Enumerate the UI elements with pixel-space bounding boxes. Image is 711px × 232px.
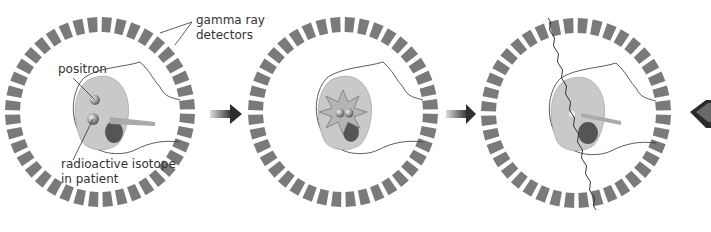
gamma-detector-block xyxy=(500,48,518,65)
gamma-detector-block xyxy=(7,85,24,98)
gamma-detector-block xyxy=(535,185,549,202)
gamma-detector-block xyxy=(614,29,630,47)
gamma-detector-block xyxy=(302,23,316,40)
gamma-detector-block xyxy=(483,128,500,141)
gamma-detector-block xyxy=(248,114,264,125)
gamma-detector-block xyxy=(316,19,329,36)
label-line: detectors xyxy=(196,28,265,43)
gamma-detectors-label: gamma ray detectors xyxy=(196,13,265,43)
arrow-1-to-2 xyxy=(210,104,242,124)
pet-diagram xyxy=(0,0,711,232)
gamma-detector-block xyxy=(35,170,52,188)
positron-label: positron xyxy=(58,62,107,77)
gamma-detector-block xyxy=(563,18,574,34)
gamma-detector-block xyxy=(115,189,128,206)
gamma-detector-block xyxy=(179,99,195,110)
gamma-detector-block xyxy=(17,150,35,166)
gamma-detector-block xyxy=(614,179,630,197)
gamma-detector-block xyxy=(7,127,24,140)
gamma-detector-block xyxy=(260,150,278,166)
gamma-detector-block xyxy=(523,179,539,197)
gamma-detector-block xyxy=(345,191,356,207)
gamma-detector-block xyxy=(278,170,295,188)
gamma-detector-block xyxy=(358,189,371,206)
gamma-detector-block xyxy=(549,190,562,207)
gamma-detector-block xyxy=(177,85,194,98)
gamma-detector-block xyxy=(370,184,384,201)
gamma-detector-block xyxy=(409,58,427,74)
gamma-detector-block xyxy=(88,191,98,207)
gamma-detector-block xyxy=(330,17,341,33)
gamma-detector-block xyxy=(481,101,497,111)
next-panel-badge xyxy=(690,100,711,128)
gamma-detector-block xyxy=(564,192,574,208)
gamma-detector-block xyxy=(24,47,41,64)
gamma-detector-block xyxy=(648,72,665,86)
label-line: in patient xyxy=(61,172,176,187)
gamma-detector-block xyxy=(250,127,267,140)
gamma-detector-block xyxy=(522,30,538,48)
gamma-detector-block xyxy=(331,191,341,207)
gamma-detector-block xyxy=(102,191,113,207)
gamma-detector-block xyxy=(114,19,127,36)
gamma-detector-block xyxy=(148,36,165,53)
gamma-detector-block xyxy=(420,85,437,98)
gamma-detector-block xyxy=(409,150,427,166)
gamma-detector-block xyxy=(391,36,408,53)
gamma-detector-block xyxy=(59,23,73,40)
gamma-detector-block xyxy=(653,86,670,99)
gamma-detector-block xyxy=(392,170,409,187)
gamma-detector-block xyxy=(401,160,419,177)
gamma-detector-block xyxy=(102,17,112,33)
gamma-detector-block xyxy=(345,17,355,33)
gamma-detector-block xyxy=(87,17,98,33)
gamma-detector-block xyxy=(481,115,497,126)
gamma-detector-block xyxy=(138,28,154,46)
gamma-detector-block xyxy=(625,171,642,188)
gamma-detector-block xyxy=(25,161,42,178)
patient-head-2 xyxy=(316,62,423,154)
gamma-detector-block xyxy=(535,24,549,41)
gamma-detector-block xyxy=(603,185,617,202)
gamma-detector-block xyxy=(510,38,527,55)
gamma-detector-block xyxy=(289,29,305,47)
gamma-detector-block xyxy=(602,23,616,40)
gamma-detector-block xyxy=(277,37,294,54)
gamma-detector-block xyxy=(316,189,329,206)
gamma-detector-block xyxy=(250,85,267,98)
arrow-2-to-3 xyxy=(446,104,476,124)
gamma-detector-block xyxy=(578,18,588,34)
gamma-detector-block xyxy=(422,99,438,110)
gamma-detector-block xyxy=(268,161,285,178)
gamma-detector-block xyxy=(590,20,603,37)
gamma-detector-block xyxy=(11,139,28,153)
gamma-detector-block xyxy=(253,71,270,85)
gamma-detector-block xyxy=(591,190,604,207)
gamma-detector-block xyxy=(10,71,27,85)
gamma-detector-block xyxy=(642,59,660,75)
gamma-detector-block xyxy=(648,139,665,153)
gamma-detector-block xyxy=(415,138,432,152)
gamma-detector-block xyxy=(493,151,511,167)
gamma-detector-block xyxy=(73,189,86,206)
gamma-detector-block xyxy=(290,178,306,196)
gamma-detector-block xyxy=(653,127,670,140)
gamma-detector-block xyxy=(73,19,86,36)
gamma-detector-block xyxy=(401,46,418,63)
gamma-detector-block xyxy=(655,115,671,125)
gamma-detector-block xyxy=(254,139,271,153)
gamma-detector-block xyxy=(248,100,264,110)
gamma-detector-block xyxy=(381,28,397,46)
gamma-detector-block xyxy=(16,59,34,75)
gamma-detector-block xyxy=(422,114,438,124)
gamma-detector-block xyxy=(179,114,195,124)
gamma-detector-block xyxy=(483,86,500,99)
label-line: gamma ray xyxy=(196,13,265,28)
gamma-detector-block xyxy=(172,138,189,152)
gamma-detector-block xyxy=(381,178,397,196)
gamma-detector-block xyxy=(46,29,62,47)
isotope-label: radioactive isotope in patient xyxy=(61,157,176,187)
gamma-detector-block xyxy=(415,71,432,85)
gamma-detector-block xyxy=(126,22,140,39)
gamma-detector-block xyxy=(486,72,503,86)
